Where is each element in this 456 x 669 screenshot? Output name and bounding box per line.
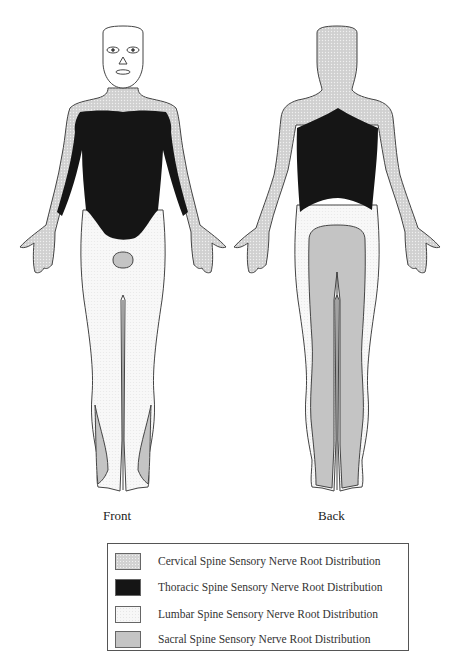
thoracic-swatch	[115, 579, 141, 596]
legend-label: Cervical Spine Sensory Nerve Root Distri…	[158, 555, 381, 567]
front-mouth	[116, 70, 130, 74]
back-torso-thoracic	[297, 108, 378, 212]
front-view-label: Front	[103, 508, 131, 524]
legend-item-sacral: Sacral Spine Sensory Nerve Root Distribu…	[115, 630, 370, 648]
cervical-swatch	[115, 553, 141, 570]
legend-item-lumbar: Lumbar Spine Sensory Nerve Root Distribu…	[115, 605, 378, 623]
legend-item-cervical: Cervical Spine Sensory Nerve Root Distri…	[115, 552, 381, 570]
lumbar-swatch	[115, 606, 141, 623]
back-view-label: Back	[318, 508, 345, 524]
front-torso-thoracic	[57, 111, 188, 240]
back-body	[234, 26, 440, 491]
legend-label: Lumbar Spine Sensory Nerve Root Distribu…	[158, 608, 378, 620]
front-pelvis-sacral	[113, 252, 133, 268]
legend-label: Thoracic Spine Sensory Nerve Root Distri…	[158, 581, 383, 593]
front-body	[20, 26, 226, 491]
legend-item-thoracic: Thoracic Spine Sensory Nerve Root Distri…	[115, 578, 383, 596]
legend-label: Sacral Spine Sensory Nerve Root Distribu…	[158, 633, 370, 645]
sacral-swatch	[115, 631, 141, 648]
legend: Cervical Spine Sensory Nerve Root Distri…	[107, 543, 409, 651]
